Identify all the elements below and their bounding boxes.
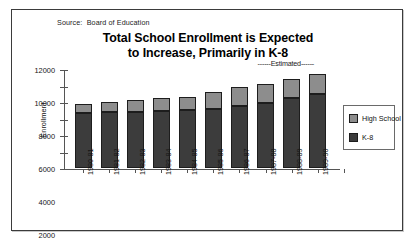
y-tick: 0 xyxy=(60,169,68,170)
bar-segment-high-school xyxy=(179,97,196,110)
bar-segment-high-school xyxy=(127,100,144,112)
x-category-label: 1985-86 xyxy=(216,149,225,175)
x-tick xyxy=(266,169,267,173)
bar-segment-high-school xyxy=(283,79,300,98)
y-tick-label: 12000 xyxy=(34,66,55,75)
x-category-label: 1983-84 xyxy=(164,149,173,175)
chart-figure: Source: Board of Education Total School … xyxy=(11,9,403,231)
plot-area: Enrollment 020004000600080001000012000 1… xyxy=(64,70,340,169)
x-tick xyxy=(187,169,188,173)
legend-item-high-school[interactable]: High School xyxy=(349,112,390,124)
x-category-label: 1984-85 xyxy=(190,149,199,175)
y-tick: 10000 xyxy=(60,87,68,88)
x-tick xyxy=(292,169,293,173)
bar-segment-high-school xyxy=(75,104,92,113)
chart-legend: High School K-8 xyxy=(343,105,395,150)
x-tick xyxy=(135,169,136,173)
legend-item-k8[interactable]: K-8 xyxy=(349,131,390,143)
chart-title-line-2: to Increase, Primarily in K-8 xyxy=(12,46,404,61)
x-category-label: 1981-82 xyxy=(112,149,121,175)
y-tick: 4000 xyxy=(60,136,68,137)
y-tick-label: 2000 xyxy=(39,231,55,240)
legend-swatch-k8 xyxy=(349,133,358,142)
x-category-label: 1980-81 xyxy=(86,149,95,175)
bar-segment-high-school xyxy=(101,102,118,112)
chart-title: Total School Enrollment is Expected to I… xyxy=(12,31,404,60)
bar-segment-high-school xyxy=(257,84,274,103)
y-tick-label: 8000 xyxy=(39,132,55,141)
legend-swatch-high-school xyxy=(349,114,358,123)
y-tick-label: 10000 xyxy=(34,99,55,108)
bar-segment-high-school xyxy=(309,74,326,94)
x-tick xyxy=(344,169,345,173)
y-tick: 6000 xyxy=(60,120,68,121)
source-note: Source: Board of Education xyxy=(57,18,150,27)
y-tick: 2000 xyxy=(60,153,68,154)
x-tick xyxy=(213,169,214,173)
y-tick: 8000 xyxy=(60,103,68,104)
x-tick xyxy=(109,169,110,173)
bar-segment-high-school xyxy=(231,87,248,106)
bar-segment-high-school xyxy=(205,92,222,109)
chart-title-line-1: Total School Enrollment is Expected xyxy=(12,31,404,46)
x-tick xyxy=(83,169,84,173)
y-tick-label: 6000 xyxy=(39,165,55,174)
x-tick xyxy=(239,169,240,173)
x-tick xyxy=(161,169,162,173)
x-category-label: 1989-90 xyxy=(321,149,330,175)
x-category-label: 1986-87 xyxy=(242,149,251,175)
x-category-label: 1982-83 xyxy=(138,149,147,175)
y-tick-label: 4000 xyxy=(39,198,55,207)
legend-label-high-school: High School xyxy=(362,114,401,123)
y-tick: 12000 xyxy=(60,70,68,71)
estimated-annotation: ------Estimated------ xyxy=(258,59,314,68)
bar-segment-high-school xyxy=(153,98,170,110)
x-tick xyxy=(318,169,319,173)
x-category-label: 1988-89 xyxy=(295,149,304,175)
x-category-label: 1987-88 xyxy=(269,149,278,175)
legend-label-k8: K-8 xyxy=(362,133,373,142)
